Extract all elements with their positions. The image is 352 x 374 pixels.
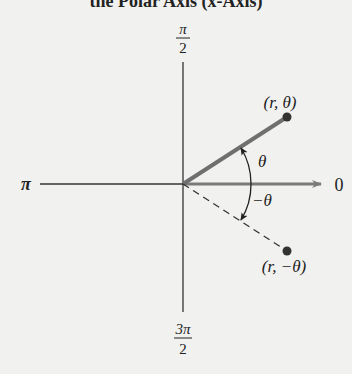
point-label-r-theta: (r, θ) xyxy=(264,93,297,112)
theta-arc-icon xyxy=(241,148,251,184)
theta-label: θ xyxy=(258,152,266,171)
bottom-label-denominator: 2 xyxy=(179,341,187,357)
point-label-r-neg-theta: (r, −θ) xyxy=(262,257,307,276)
polar-diagram: π 2 π 0 3π 2 (r, θ) (r, −θ) θ −θ xyxy=(0,0,352,374)
neg-theta-arc-icon xyxy=(241,184,251,220)
neg-theta-label: −θ xyxy=(252,191,272,210)
ray-theta xyxy=(183,117,287,184)
top-label-denominator: 2 xyxy=(179,40,187,56)
left-label: π xyxy=(21,174,32,194)
point-r-neg-theta xyxy=(283,247,292,256)
right-label: 0 xyxy=(335,175,344,195)
top-label-numerator: π xyxy=(179,21,187,37)
bottom-label-numerator: 3π xyxy=(174,321,191,337)
point-r-theta xyxy=(283,113,292,122)
